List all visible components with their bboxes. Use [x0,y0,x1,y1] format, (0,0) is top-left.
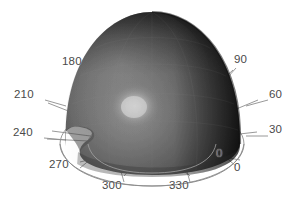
tick-label-0-occluded: 0 [216,148,223,160]
tick-label-0: 0 [234,162,241,174]
tick-label-330: 330 [169,180,189,192]
tick-label-270: 270 [49,159,69,171]
tick-label-300: 300 [102,180,122,192]
tick-label-30: 30 [269,124,282,136]
plot-canvas [0,0,304,205]
tick-label-240: 240 [13,127,33,139]
polar-surface-figure: 180 210 240 270 300 330 0 0 30 60 90 [0,0,304,205]
dome-surface [46,0,244,182]
tick-label-90: 90 [234,54,247,66]
tick-label-210: 210 [14,89,34,101]
tick-label-180: 180 [62,56,82,68]
tick-label-60: 60 [269,89,282,101]
